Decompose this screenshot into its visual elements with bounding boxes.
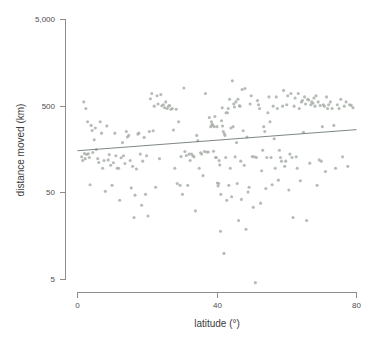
data-point (223, 134, 226, 137)
data-point (319, 104, 322, 107)
data-point (231, 125, 234, 128)
data-point (273, 137, 276, 140)
data-point (81, 159, 84, 162)
data-point (109, 164, 112, 167)
data-point (272, 105, 275, 108)
data-point (316, 184, 319, 187)
data-point (221, 124, 224, 127)
data-point (339, 98, 342, 101)
data-point (86, 120, 89, 123)
data-point (274, 167, 277, 170)
data-point (338, 107, 341, 110)
data-point (291, 216, 294, 219)
data-point (200, 153, 203, 156)
data-point (227, 107, 230, 110)
data-point (181, 193, 184, 196)
data-point (208, 116, 211, 119)
data-point (308, 162, 311, 165)
data-point (182, 86, 185, 89)
data-point (265, 156, 268, 159)
data-point (299, 179, 302, 182)
data-point (286, 94, 289, 97)
data-point (295, 155, 298, 158)
data-point (235, 141, 238, 144)
data-point (238, 105, 241, 108)
data-point (143, 136, 146, 139)
data-point (97, 161, 100, 164)
data-point (125, 130, 128, 133)
data-point (243, 164, 246, 167)
data-point (101, 167, 104, 170)
data-point (135, 168, 138, 171)
data-point (263, 130, 266, 133)
data-point (131, 165, 134, 168)
data-point (261, 149, 264, 152)
y-axis-title: distance moved (km) (15, 104, 26, 197)
data-point (315, 94, 318, 97)
data-point (149, 97, 152, 100)
data-point (289, 92, 292, 95)
data-point (113, 132, 116, 135)
data-point (321, 125, 324, 128)
regression-trendline (78, 130, 357, 151)
data-point (225, 199, 228, 202)
data-point (242, 129, 245, 132)
data-point (213, 115, 216, 118)
data-point (122, 154, 125, 157)
x-tick-label-40: 40 (213, 301, 222, 310)
data-point (252, 206, 255, 209)
data-point (346, 165, 349, 168)
data-point (250, 94, 253, 97)
data-point (213, 125, 216, 128)
x-axis-ticks (78, 293, 357, 299)
data-point (327, 103, 330, 106)
data-point (91, 129, 94, 132)
data-point (344, 100, 347, 103)
data-point (82, 100, 85, 103)
data-point (219, 230, 222, 233)
data-point (162, 103, 165, 106)
data-point (307, 98, 310, 101)
data-point (144, 193, 147, 196)
data-point (283, 165, 286, 168)
data-point (117, 167, 120, 170)
data-point (270, 156, 273, 159)
data-point (282, 89, 285, 92)
data-point (249, 102, 252, 105)
data-point (130, 186, 133, 189)
data-point (294, 97, 297, 100)
data-point (246, 191, 249, 194)
data-point (332, 124, 335, 127)
data-point (255, 156, 258, 159)
data-point (198, 167, 201, 170)
data-point (220, 119, 223, 122)
y-tick-label-50: 50 (46, 188, 55, 197)
data-point (192, 155, 195, 158)
data-point (105, 124, 108, 127)
x-axis-title: latitude (°) (194, 318, 240, 329)
data-point (324, 170, 327, 173)
data-point (290, 156, 293, 159)
data-point (107, 158, 110, 161)
data-point (243, 87, 246, 90)
data-point (127, 134, 130, 137)
data-point (146, 214, 149, 217)
data-point (195, 134, 198, 137)
data-point (207, 150, 210, 153)
data-point (336, 103, 339, 106)
data-point (288, 153, 291, 156)
y-tick-label-5: 5 (51, 275, 56, 284)
data-point (219, 193, 222, 196)
y-axis-ticks (60, 20, 66, 280)
data-point (194, 209, 197, 212)
data-point (218, 159, 221, 162)
data-point (218, 163, 221, 166)
data-point (102, 159, 105, 162)
data-point (185, 154, 188, 157)
data-point (257, 103, 260, 106)
data-point (212, 150, 215, 153)
data-point (118, 199, 121, 202)
data-point (94, 126, 97, 129)
data-point (129, 159, 132, 162)
data-point (264, 187, 267, 190)
